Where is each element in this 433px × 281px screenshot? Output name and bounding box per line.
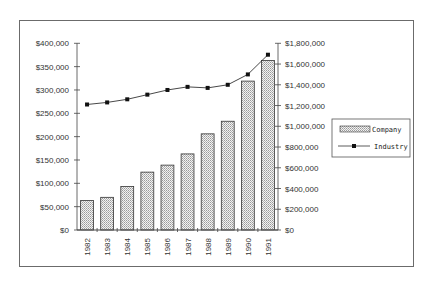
company-bar (121, 187, 134, 230)
x-axis: 1982198319841985198619871988198919901991 (77, 228, 278, 256)
left-axis-tick-label: $50,000 (40, 203, 69, 212)
company-bar (81, 201, 94, 230)
company-bars (81, 61, 275, 230)
industry-point (165, 88, 169, 92)
x-axis-tick-label: 1987 (184, 237, 193, 255)
x-axis-tick-label: 1986 (163, 237, 172, 255)
left-axis-tick-label: $250,000 (36, 109, 70, 118)
x-axis-tick-label: 1982 (83, 237, 92, 255)
industry-point (186, 85, 190, 89)
right-axis-tick-label: $1,200,000 (285, 102, 326, 111)
industry-point (226, 83, 230, 87)
industry-point (145, 93, 149, 97)
left-axis-tick-label: $150,000 (36, 156, 70, 165)
industry-point (105, 100, 109, 104)
x-axis-tick-label: 1988 (204, 237, 213, 255)
legend: Company Industry (332, 119, 410, 157)
company-bar (221, 121, 234, 230)
company-bar (262, 61, 275, 230)
industry-point (246, 72, 250, 76)
right-axis-tick-label: $1,800,000 (285, 39, 326, 48)
x-axis-tick-label: 1983 (103, 237, 112, 255)
left-axis-tick-label: $0 (60, 226, 69, 235)
left-axis-tick-label: $100,000 (36, 179, 70, 188)
company-bar (141, 172, 154, 230)
company-bar (181, 154, 194, 230)
right-axis-tick-label: $0 (285, 226, 294, 235)
left-axis-tick-label: $300,000 (36, 86, 70, 95)
industry-line-path (87, 55, 268, 105)
right-axis-tick-label: $1,400,000 (285, 81, 326, 90)
legend-box (332, 119, 410, 157)
x-axis-tick-label: 1984 (123, 237, 132, 255)
industry-point (266, 53, 270, 57)
combo-chart: $0$50,000$100,000$150,000$200,000$250,00… (0, 0, 433, 281)
industry-point (206, 86, 210, 90)
right-y-axis: $0$200,000$400,000$600,000$800,000$1,000… (275, 39, 326, 235)
company-bar (241, 81, 254, 230)
x-axis-tick-label: 1989 (224, 237, 233, 255)
left-axis-tick-label: $200,000 (36, 133, 70, 142)
legend-label-company: Company (372, 126, 402, 134)
x-axis-tick-label: 1990 (244, 237, 253, 255)
left-axis-tick-label: $350,000 (36, 63, 70, 72)
company-bar (101, 197, 114, 230)
company-bar (161, 165, 174, 230)
left-y-axis: $0$50,000$100,000$150,000$200,000$250,00… (36, 39, 80, 235)
right-axis-tick-label: $800,000 (285, 143, 319, 152)
right-axis-tick-label: $600,000 (285, 164, 319, 173)
legend-swatch-company (340, 126, 370, 132)
right-axis-tick-label: $1,000,000 (285, 122, 326, 131)
right-axis-tick-label: $400,000 (285, 185, 319, 194)
industry-point (85, 102, 89, 106)
industry-point (125, 97, 129, 101)
x-axis-tick-label: 1985 (143, 237, 152, 255)
right-axis-tick-label: $200,000 (285, 205, 319, 214)
legend-label-industry: Industry (374, 143, 408, 151)
right-axis-tick-label: $1,600,000 (285, 60, 326, 69)
company-bar (201, 134, 214, 230)
left-axis-tick-label: $400,000 (36, 39, 70, 48)
x-axis-tick-label: 1991 (264, 237, 273, 255)
legend-marker-industry (352, 144, 356, 148)
